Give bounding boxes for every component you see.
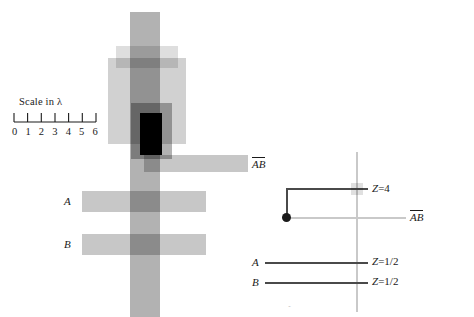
right-diagram: A B AB Z=4 Z=1/2 Z=1/2 — [250, 140, 474, 317]
z-value-half-a: 1/2 — [384, 255, 398, 267]
right-b-line — [265, 282, 368, 284]
z-value-4: 4 — [384, 182, 390, 194]
annotation-z-equals-4: Z=4 — [372, 182, 390, 194]
right-label-ab-text: AB — [410, 210, 423, 223]
annotation-z-equals-half-b: Z=1/2 — [372, 275, 398, 287]
bottom-caption-strip: fold in a cavity-backed slot antenna — [236, 306, 474, 317]
right-label-ab: AB — [410, 210, 423, 223]
bottom-caption-text: fold in a cavity-backed slot antenna — [236, 306, 371, 307]
block-b-horizontal-bar — [82, 234, 206, 255]
block-core-black-rect — [140, 113, 162, 155]
left-label-b: B — [64, 238, 71, 250]
annotation-z-equals-half-a: Z=1/2 — [372, 255, 398, 267]
right-feed-point-dot — [282, 213, 291, 222]
block-a-horizontal-bar — [82, 191, 206, 212]
block-ab-horizontal-bar — [144, 155, 248, 172]
right-ab-horizontal-line — [286, 217, 406, 219]
figure-canvas: Scale in λ 0 1 2 3 4 5 6 — [0, 0, 474, 317]
right-label-b: B — [252, 276, 259, 288]
right-z4-junction-blob — [351, 183, 363, 195]
right-vertical-axis — [356, 152, 358, 312]
right-label-a: A — [252, 256, 259, 268]
right-a-line — [265, 262, 368, 264]
z-value-half-b: 1/2 — [384, 275, 398, 287]
left-label-a: A — [64, 195, 71, 207]
